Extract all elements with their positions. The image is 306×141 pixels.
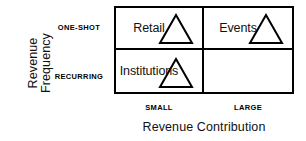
column-label-small: SMALL xyxy=(114,103,204,112)
matrix-cell-events: Events xyxy=(204,8,292,50)
matrix-cell-retail: Retail xyxy=(116,8,204,50)
x-axis-title: Revenue Contribution xyxy=(114,120,294,134)
matrix-cell-label-retail: Retail xyxy=(133,21,164,35)
row-label-one-shot: ONE-SHOT xyxy=(48,23,110,32)
matrix-cell-institutions: Institutions xyxy=(116,50,204,92)
matrix-cell-label-events: Events xyxy=(219,21,257,35)
matrix-cell-empty xyxy=(204,50,292,92)
matrix-grid: Retail Events Institutions xyxy=(114,6,294,94)
row-label-recurring: RECURRING xyxy=(48,72,110,81)
column-label-large: LARGE xyxy=(203,103,293,112)
y-axis-title-line-2: Frequency xyxy=(40,33,53,93)
matrix-cell-label-institutions: Institutions xyxy=(120,64,179,78)
revenue-matrix-diagram: Revenue Frequency ONE-SHOT RECURRING Ret… xyxy=(0,0,306,141)
